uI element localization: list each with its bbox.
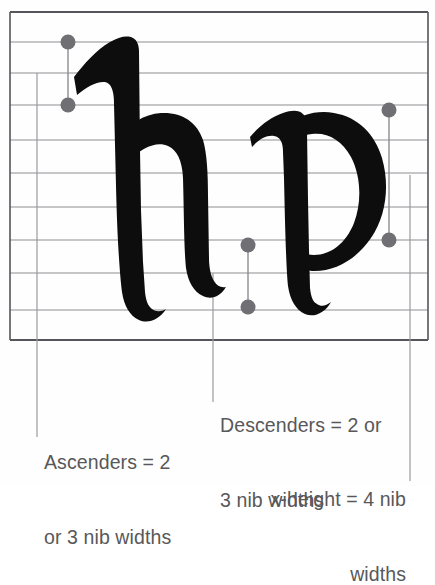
xheight-top-dot bbox=[382, 103, 397, 118]
ascender-top-dot bbox=[61, 35, 76, 50]
xheight-bottom-dot bbox=[382, 233, 397, 248]
letter-p-glyph bbox=[250, 111, 386, 316]
xheight-caption: x-height = 4 nib widths bbox=[225, 437, 406, 585]
letter-h-glyph bbox=[74, 37, 226, 322]
descenders-caption-line1: Descenders = 2 or bbox=[220, 413, 382, 438]
xheight-caption-line2: widths bbox=[225, 562, 406, 585]
descender-bottom-dot bbox=[241, 300, 256, 315]
ascenders-caption-line1: Ascenders = 2 bbox=[44, 450, 171, 475]
xheight-caption-line1: x-height = 4 nib bbox=[225, 487, 406, 512]
ascender-bottom-dot bbox=[61, 98, 76, 113]
ascenders-caption-line2: or 3 nib widths bbox=[44, 525, 171, 550]
descender-top-dot bbox=[241, 238, 256, 253]
ascenders-caption: Ascenders = 2 or 3 nib widths bbox=[44, 400, 171, 585]
